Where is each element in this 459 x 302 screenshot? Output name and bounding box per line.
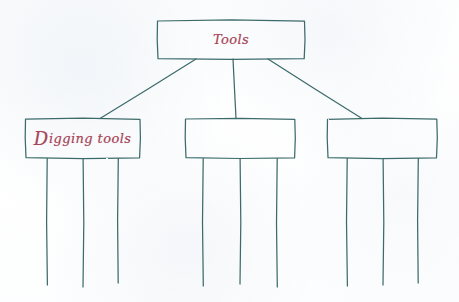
stem-child-0-2	[118, 159, 119, 284]
node-box-child-0[interactable]	[25, 118, 140, 158]
stem-child-1-2	[277, 159, 278, 288]
connector-root-to-child-0	[100, 59, 196, 119]
stem-child-2-2	[418, 159, 419, 284]
stem-child-0-1	[83, 159, 84, 288]
paper-sheet: Tools Digging tools	[0, 0, 459, 302]
stem-child-2-0	[347, 159, 348, 287]
diagram-canvas	[0, 0, 459, 302]
node-box-child-2[interactable]	[327, 118, 437, 158]
node-box-child-1[interactable]	[185, 118, 295, 158]
node-box-root[interactable]	[157, 20, 305, 60]
stem-child-2-1	[383, 159, 384, 286]
connector-root-to-child-1	[233, 59, 236, 119]
stem-child-0-0	[47, 159, 48, 286]
stem-child-1-1	[240, 159, 241, 285]
stem-child-1-0	[203, 159, 204, 287]
connector-root-to-child-2	[268, 59, 362, 119]
